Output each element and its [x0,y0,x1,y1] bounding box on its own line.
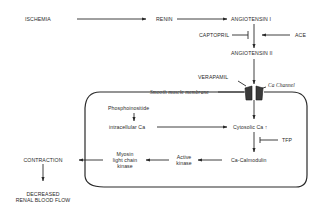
ca-channel-icon [245,86,263,100]
node-decreased-line2: RENAL BLOOD FLOW [16,197,71,203]
node-captopril: CAPTOPRIL [199,32,229,38]
node-ca-channel: Ca Channel [268,82,295,88]
node-ischemia: ISCHEMIA [25,16,51,22]
node-phosphoinositide: Phosphoinositide [108,105,149,111]
diagram-canvas [0,0,318,214]
node-intracellular-ca: intracellular Ca [109,124,145,130]
edge-verapamil-pointer [238,81,246,86]
node-ace: ACE [295,32,306,38]
node-tfp: TFP [282,137,292,143]
node-cytosolic-ca: Cytosolic Ca ↑ [233,124,268,130]
node-renin: RENIN [156,16,173,22]
node-contraction: CONTRACTION [23,157,62,163]
node-smooth-muscle-membrane: Smooth muscle membrane [150,89,209,95]
node-angiotensin-1: ANGIOTENSIN I [231,16,271,22]
node-mlck-line3: kinase [117,163,133,169]
node-ca-calmodulin: Ca-Calmodulin [231,157,267,163]
node-active-kinase-line2: kinase [176,160,192,166]
node-verapamil: VERAPAMIL [198,74,228,80]
node-angiotensin-2: ANGIOTENSIN II [231,50,272,56]
